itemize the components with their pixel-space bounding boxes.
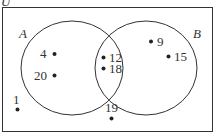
element-18-dot <box>102 67 106 71</box>
element-15-label: 15 <box>174 49 187 64</box>
element-9-label: 9 <box>157 34 164 49</box>
element-15-dot <box>167 55 171 59</box>
element-19-dot <box>110 117 114 121</box>
element-20-label: 20 <box>34 68 47 83</box>
set-b-label: B <box>193 26 201 41</box>
element-20-dot <box>53 74 57 78</box>
element-4-dot <box>53 52 57 56</box>
set-a-label: A <box>18 26 27 41</box>
element-9-dot <box>149 40 153 44</box>
element-12-dot <box>102 56 106 60</box>
element-1-label: 1 <box>13 92 20 107</box>
element-1-dot <box>16 108 20 112</box>
element-18-label: 18 <box>109 61 122 76</box>
element-19-label: 19 <box>105 100 118 115</box>
venn-diagram: U A B 4 20 12 18 9 15 1 19 <box>0 0 215 133</box>
element-4-label: 4 <box>40 46 47 61</box>
